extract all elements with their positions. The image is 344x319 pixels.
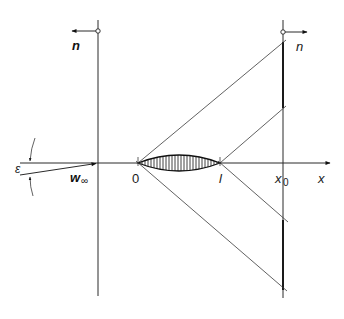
airfoil-profile — [138, 150, 220, 176]
angle-arc-upper-icon — [30, 138, 35, 161]
mach-line-trailing-upper — [220, 106, 286, 163]
station-subscript: 0 — [283, 177, 289, 188]
angle-label: ε — [15, 162, 21, 176]
origin-label: 0 — [132, 171, 139, 186]
mach-line-leading-lower — [136, 161, 287, 291]
freestream-arrow-icon — [20, 164, 96, 176]
left-normal-label: n — [72, 38, 80, 53]
station-label: x — [274, 171, 282, 186]
chord-length-label: l — [219, 171, 223, 186]
freestream-label: w — [70, 170, 81, 185]
x-axis-label: x — [317, 171, 325, 186]
freestream-subscript: ∞ — [81, 175, 88, 186]
supersonic-airfoil-diagram: n n ε w ∞ — [0, 0, 344, 319]
mach-line-leading-upper — [138, 40, 286, 163]
right-normal-label: n — [296, 39, 303, 54]
angle-arc-lower-icon — [30, 177, 33, 196]
left-normal-origin-circle — [96, 29, 100, 33]
right-normal-origin-circle — [281, 30, 285, 34]
